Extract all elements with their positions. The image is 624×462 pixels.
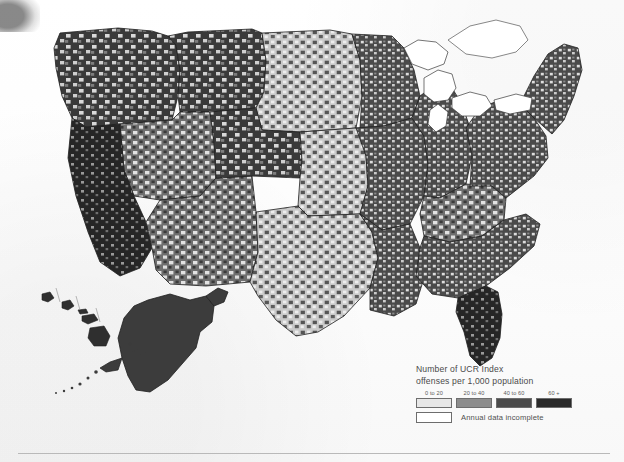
canada-outline bbox=[448, 20, 528, 58]
region-great-plains bbox=[298, 128, 368, 216]
hawaii-molokai bbox=[78, 309, 88, 314]
legend-class-0-label: 0 to 20 bbox=[425, 390, 443, 397]
hawaii-oahu bbox=[62, 300, 74, 310]
page-bottom-rule bbox=[18, 453, 610, 454]
legend-class-2-label: 40 to 60 bbox=[503, 390, 524, 397]
legend-incomplete-swatch bbox=[416, 412, 452, 423]
hawaii-kauai bbox=[42, 292, 54, 302]
hawaii-bigisland bbox=[88, 326, 110, 346]
map-legend: Number of UCR Index offenses per 1,000 p… bbox=[416, 364, 596, 423]
legend-incomplete-row[interactable]: Annual data incomplete bbox=[416, 412, 596, 423]
region-florida bbox=[456, 286, 502, 366]
region-texas bbox=[250, 206, 378, 336]
region-montana bbox=[168, 29, 266, 112]
legend-class-2[interactable]: 40 to 60 bbox=[496, 390, 532, 408]
legend-class-2-swatch bbox=[496, 398, 532, 408]
legend-class-3[interactable]: 60 + bbox=[536, 390, 572, 408]
aleutian-islands bbox=[55, 370, 98, 394]
document-page: Number of UCR Index offenses per 1,000 p… bbox=[0, 0, 624, 462]
legend-class-1-label: 20 to 40 bbox=[463, 390, 484, 397]
region-corn-belt bbox=[356, 118, 428, 230]
legend-class-1[interactable]: 20 to 40 bbox=[456, 390, 492, 408]
region-alaska bbox=[118, 294, 214, 392]
alaska-peninsula bbox=[100, 358, 122, 372]
legend-class-3-swatch bbox=[536, 398, 572, 408]
alaska-inset bbox=[55, 288, 228, 394]
legend-class-3-label: 60 + bbox=[548, 390, 559, 397]
legend-scale: 0 to 20 20 to 40 40 to 60 60 + bbox=[416, 390, 596, 408]
legend-title-line1: Number of UCR Index bbox=[416, 364, 596, 376]
hawaii-inset bbox=[42, 288, 110, 346]
hawaii-maui bbox=[82, 314, 98, 324]
us-county-map-svg bbox=[0, 0, 624, 400]
legend-class-0[interactable]: 0 to 20 bbox=[416, 390, 452, 408]
choropleth-map[interactable] bbox=[0, 0, 624, 400]
region-pacific-northwest bbox=[54, 28, 180, 127]
legend-title-line2: offenses per 1,000 population bbox=[416, 376, 596, 388]
legend-class-0-swatch bbox=[416, 398, 452, 408]
legend-incomplete-label: Annual data incomplete bbox=[461, 413, 544, 422]
legend-class-1-swatch bbox=[456, 398, 492, 408]
region-great-basin bbox=[120, 112, 216, 200]
region-northern-plains bbox=[256, 30, 362, 132]
